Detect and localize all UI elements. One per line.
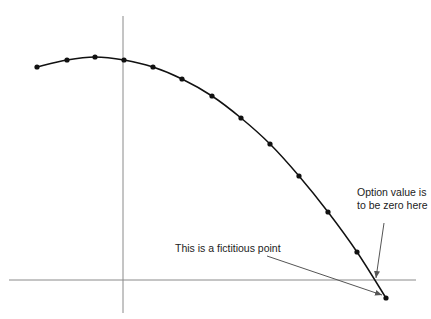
option-zero-annotation: Option value is to be zero here (357, 186, 428, 212)
data-point-marker (64, 57, 69, 62)
data-point-marker (267, 141, 272, 146)
curve-line (37, 57, 386, 298)
data-point-marker (383, 295, 388, 300)
data-point-marker (150, 64, 155, 69)
option-zero-line1: Option value is (357, 186, 428, 199)
option-zero-arrow (376, 223, 384, 278)
data-point-marker (121, 57, 126, 62)
data-point-marker (325, 209, 330, 214)
data-point-marker (209, 93, 214, 98)
data-point-marker (238, 115, 243, 120)
option-value-curve (34, 54, 388, 300)
fictitious-point-annotation: This is a fictitious point (175, 242, 281, 255)
data-point-marker (354, 249, 359, 254)
data-point-marker (296, 173, 301, 178)
diagram-canvas (0, 0, 431, 319)
data-point-marker (92, 54, 97, 59)
data-point-marker (34, 64, 39, 69)
option-zero-line2: to be zero here (357, 199, 428, 212)
data-point-marker (179, 76, 184, 81)
fictitious-point-arrow (267, 256, 382, 295)
